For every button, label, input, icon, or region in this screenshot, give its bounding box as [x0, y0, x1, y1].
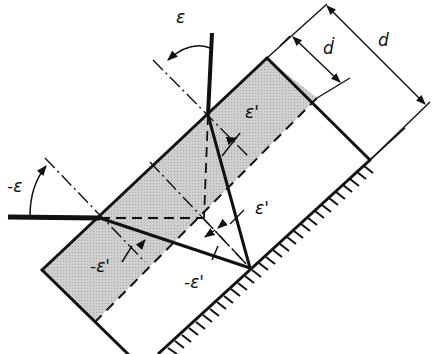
shaded-plate [42, 58, 317, 322]
label-neg-epsilon-prime-left: -ε' [90, 258, 110, 275]
label-epsilon-prime-mid: ε' [255, 200, 269, 217]
label-neg-epsilon-prime-bottom: -ε' [184, 274, 204, 291]
label-neg-epsilon-left: -ε [7, 178, 22, 195]
optical-ray-diagram [0, 0, 437, 354]
label-d: d [378, 32, 389, 49]
label-epsilon-prime-upper: ε' [245, 104, 259, 121]
label-epsilon-top: ε [176, 9, 185, 26]
label-d-dot: ḋ [323, 40, 334, 57]
